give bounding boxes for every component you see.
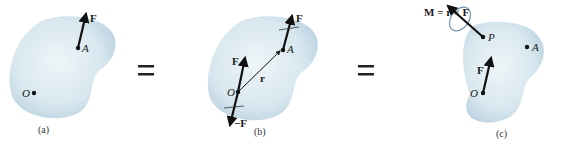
point-o-label: O bbox=[22, 87, 30, 99]
point-o-label: O bbox=[227, 86, 235, 98]
caption-c: (c) bbox=[496, 128, 507, 140]
point-a-dot bbox=[76, 46, 80, 50]
neg-force-label: −F bbox=[234, 117, 247, 129]
point-o-label: O bbox=[470, 87, 478, 99]
point-o-dot bbox=[32, 91, 36, 95]
moment-equation-label: M = r × F bbox=[424, 6, 470, 18]
panel-a: F A O (a) bbox=[10, 12, 116, 136]
force-at-o-label: F bbox=[232, 55, 239, 67]
caption-a: (a) bbox=[38, 124, 49, 136]
point-a-label: A bbox=[81, 42, 89, 54]
force-label: F bbox=[477, 64, 484, 76]
point-p-label: P bbox=[487, 31, 495, 43]
point-a-dot bbox=[525, 45, 529, 49]
rigid-body-a bbox=[10, 16, 116, 118]
point-o-dot bbox=[236, 90, 240, 94]
position-label: r bbox=[260, 72, 265, 84]
force-at-a-label: F bbox=[296, 12, 303, 24]
rigid-body-c bbox=[463, 22, 544, 123]
equals-sign-2 bbox=[358, 65, 374, 76]
panel-c: M = r × F P A F O (c) bbox=[424, 3, 544, 140]
force-label: F bbox=[90, 12, 97, 24]
caption-b: (b) bbox=[254, 126, 266, 138]
point-a-label: A bbox=[531, 41, 539, 53]
point-a-label: A bbox=[286, 43, 294, 55]
equals-sign-1 bbox=[138, 65, 154, 76]
point-o-dot bbox=[481, 91, 485, 95]
panel-b: F A F r O −F (b) bbox=[208, 12, 318, 138]
point-p-dot bbox=[481, 35, 485, 39]
point-a-dot bbox=[281, 48, 285, 52]
